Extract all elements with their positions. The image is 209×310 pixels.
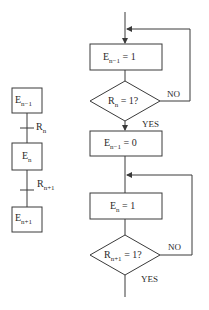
transition-label-rn: Rn: [36, 121, 47, 135]
diagram-canvas: En−1 En En+1 Rn Rn+1 En−1 = 1 Rn = 1? NO…: [0, 0, 209, 310]
no-label-1: NO: [167, 89, 180, 99]
yes-label-1: YES: [142, 119, 159, 129]
flowchart: En−1 = 1 Rn = 1? NO YES En−1 = 0 En = 1 …: [90, 12, 192, 297]
left-chain: En−1 En En+1 Rn Rn+1: [12, 88, 55, 232]
yes-label-2: YES: [141, 274, 158, 284]
no-label-2: NO: [168, 242, 181, 252]
transition-label-rn1: Rn+1: [37, 178, 55, 192]
